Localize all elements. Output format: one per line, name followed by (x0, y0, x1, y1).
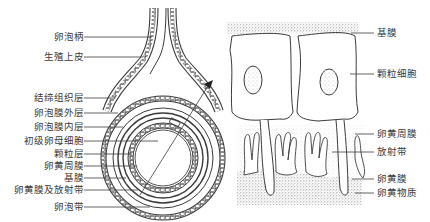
label-connective-tissue-layer: 结缔组织层 (34, 92, 84, 103)
label-basement-membrane: 基膜 (64, 172, 84, 183)
label-vitelline-and-radiata: 卵黄膜及放射带 (14, 184, 84, 195)
label-granulosa-cell: 颗粒细胞 (377, 68, 417, 79)
label-zona-radiata: 放射带 (377, 146, 407, 157)
label-theca-externa: 卵泡膜外层 (34, 107, 84, 118)
follicle-drawing (101, 8, 225, 220)
label-theca-interna: 卵泡膜内层 (34, 121, 84, 132)
label-detail-perivitelline-membrane: 卵黄周膜 (377, 128, 417, 139)
label-detail-basement-membrane: 基膜 (377, 27, 397, 38)
label-follicle-stalk: 卵泡柄 (54, 31, 84, 42)
label-perivitelline-membrane: 卵黄周膜 (44, 160, 84, 171)
detail-drawing (227, 22, 374, 205)
label-yolk: 卵黄物质 (377, 187, 417, 198)
label-follicle-band: 卵泡带 (54, 201, 84, 212)
label-primary-oocyte: 初级卵母细胞 (24, 135, 84, 146)
label-granulosa-layer: 颗粒层 (54, 148, 84, 159)
label-vitelline-membrane: 卵黄膜 (377, 173, 407, 184)
label-germinal-epithelium: 生殖上皮 (44, 51, 84, 62)
